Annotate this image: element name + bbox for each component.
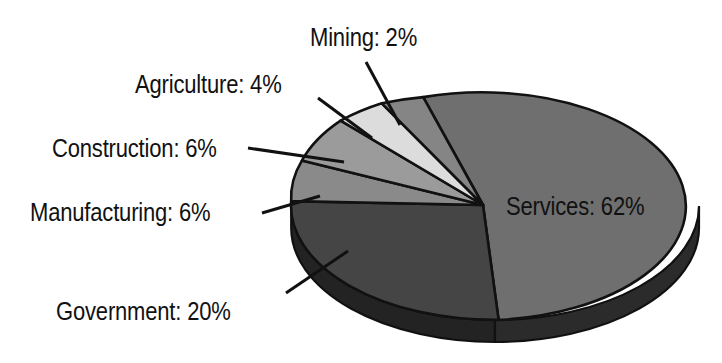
slice-government[interactable] (291, 201, 499, 320)
slice-label-government: Government: 20% (56, 299, 231, 324)
pie-chart-figure: Mining: 2% Agriculture: 4% Construction:… (0, 0, 722, 363)
slice-label-mining: Mining: 2% (310, 25, 417, 50)
slice-label-manufacturing: Manufacturing: 6% (30, 200, 210, 225)
slice-label-agriculture: Agriculture: 4% (135, 72, 282, 97)
slice-label-construction: Construction: 6% (52, 136, 217, 161)
slice-label-services: Services: 62% (506, 194, 644, 219)
